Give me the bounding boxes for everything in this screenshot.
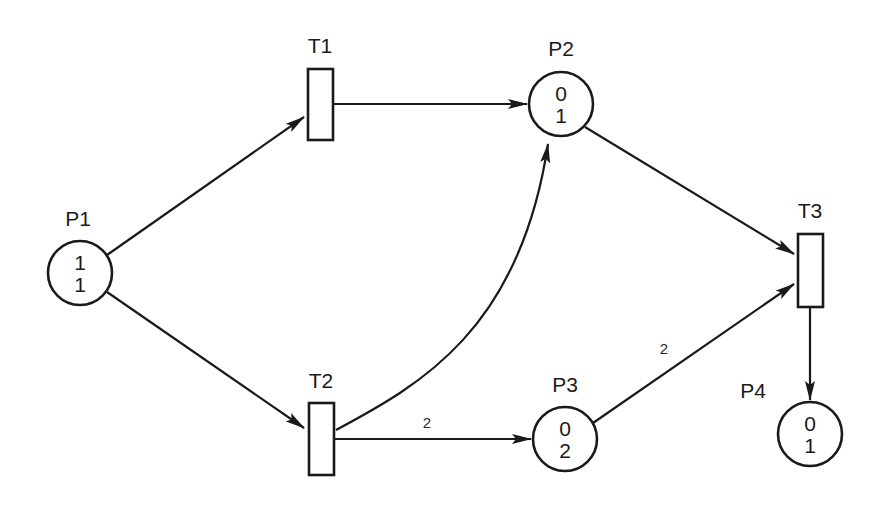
petri-net-diagram: 22 P111P201P302P401 T1T2T3 <box>0 0 885 511</box>
place-token-top: 0 <box>555 82 567 105</box>
place-p4: P401 <box>740 379 842 466</box>
arc-p1-t1 <box>107 117 304 255</box>
arc-p1-t2 <box>107 292 304 428</box>
place-label: P4 <box>740 379 766 402</box>
arcs-layer: 22 <box>107 104 810 439</box>
transition-bar <box>309 403 334 475</box>
arc-p3-t3: 2 <box>593 284 794 423</box>
arc-arrow <box>593 284 794 423</box>
arc-p2-t3 <box>585 127 794 254</box>
transition-t3: T3 <box>798 199 823 307</box>
arc-t2-p2 <box>336 144 548 430</box>
place-label: P2 <box>548 37 574 60</box>
arc-arrow <box>107 292 304 428</box>
arc-arrow <box>336 144 548 430</box>
places-layer: P111P201P302P401 <box>48 37 842 471</box>
petri-net-svg: 22 P111P201P302P401 T1T2T3 <box>0 0 885 511</box>
arc-weight-label: 2 <box>423 414 431 431</box>
place-p3: P302 <box>533 373 597 471</box>
transition-t2: T2 <box>309 369 334 475</box>
arc-arrow <box>585 127 794 254</box>
place-p1: P111 <box>48 207 112 305</box>
place-token-top: 0 <box>559 417 571 440</box>
place-token-bottom: 1 <box>555 104 567 127</box>
transition-label: T3 <box>798 199 823 222</box>
place-label: P3 <box>552 373 578 396</box>
place-token-bottom: 1 <box>74 273 86 296</box>
arc-arrow <box>107 117 304 255</box>
place-label: P1 <box>65 207 91 230</box>
transition-bar <box>308 69 333 140</box>
place-token-top: 0 <box>804 412 816 435</box>
transition-label: T2 <box>309 369 334 392</box>
transition-t1: T1 <box>308 34 333 140</box>
place-token-bottom: 2 <box>559 439 571 462</box>
arc-t2-p3: 2 <box>335 414 531 439</box>
transition-bar <box>798 234 823 307</box>
arc-weight-label: 2 <box>660 340 668 357</box>
place-p2: P201 <box>529 37 593 136</box>
place-token-top: 1 <box>74 251 86 274</box>
place-token-bottom: 1 <box>804 434 816 457</box>
transition-label: T1 <box>308 34 333 57</box>
